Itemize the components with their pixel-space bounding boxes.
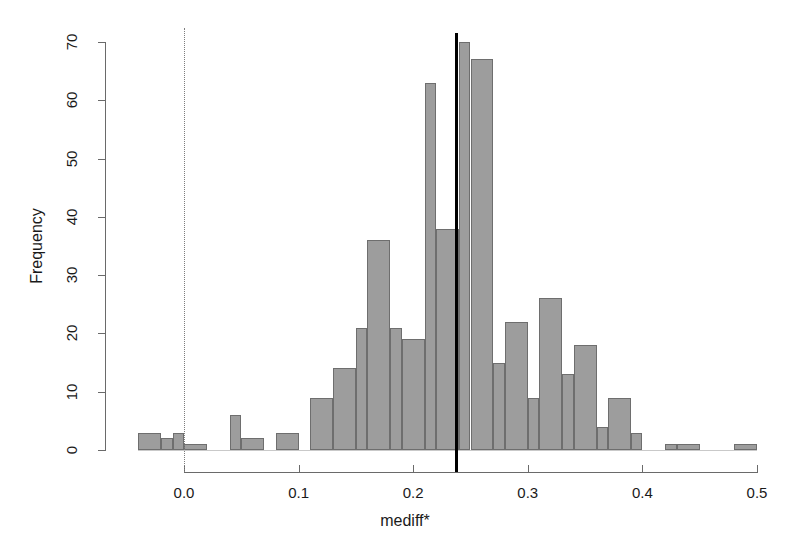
histogram-bar	[425, 83, 436, 450]
histogram-bar	[161, 438, 172, 450]
plot-area: 010203040506070 0.00.10.20.30.40.5 Frequ…	[0, 0, 810, 560]
histogram-bar	[471, 59, 494, 450]
histogram-bar	[528, 398, 539, 450]
observed-statistic-line	[455, 33, 458, 472]
histogram-bar	[241, 438, 264, 450]
histogram-figure: 010203040506070 0.00.10.20.30.40.5 Frequ…	[0, 0, 810, 560]
zero-reference-line	[184, 28, 185, 472]
y-axis-label: Frequency	[25, 146, 49, 346]
histogram-bar	[665, 444, 676, 450]
histogram-bar	[631, 433, 642, 450]
histogram-bar	[402, 339, 425, 450]
histogram-bar	[677, 444, 700, 450]
histogram-bar	[184, 444, 207, 450]
histogram-bar	[505, 322, 528, 450]
histogram-bar	[608, 398, 631, 450]
histogram-bar	[230, 415, 241, 450]
histogram-bar	[333, 368, 356, 450]
histogram-bar	[597, 427, 608, 450]
histogram-bar	[574, 345, 597, 450]
histogram-bar	[276, 433, 299, 450]
histogram-bars	[0, 0, 810, 560]
histogram-bar	[390, 328, 401, 450]
x-axis-label: mediff*	[0, 512, 810, 530]
histogram-bar	[310, 398, 333, 450]
histogram-bar	[356, 328, 367, 450]
histogram-bar	[173, 433, 184, 450]
histogram-bar	[367, 240, 390, 450]
histogram-bar	[562, 374, 573, 450]
histogram-bar	[459, 42, 470, 450]
histogram-bar	[493, 363, 504, 450]
histogram-bar	[734, 444, 757, 450]
histogram-bar	[539, 298, 562, 450]
histogram-bar	[138, 433, 161, 450]
